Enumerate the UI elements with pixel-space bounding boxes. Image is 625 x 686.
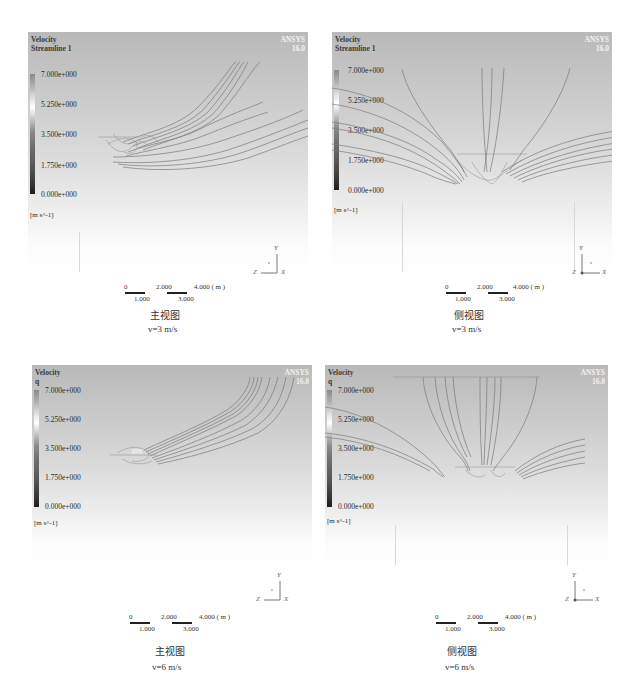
panel-side-view-6ms: Velocity q ANSYS 16.0 7.000e+000 5.250e+… [312, 345, 625, 686]
scale-segment [172, 622, 192, 624]
scale-bar: 0 2.000 4.000 ( m ) 1.000 3.000 [129, 613, 259, 635]
scale-segment [167, 292, 187, 294]
scale-label: 2.000 [161, 613, 177, 621]
axis-z-label: Z [256, 595, 260, 603]
axis-triad-icon [574, 248, 604, 278]
scale-label: 0 [124, 283, 128, 291]
panel-front-view-3ms: Velocity Streamline 1 ANSYS 16.0 7.000e+… [0, 0, 312, 345]
scale-segment [130, 622, 150, 624]
divider-line [402, 202, 403, 272]
axis-z-label: Z [572, 268, 576, 276]
view-caption: 主视图 [155, 643, 185, 658]
streamlines [32, 365, 312, 565]
streamlines [332, 32, 612, 272]
divider-line [567, 525, 568, 565]
scale-label: 4.000 ( m ) [199, 613, 230, 621]
scale-label: 3.000 [178, 295, 194, 303]
speed-label: v=3 m/s [452, 324, 481, 334]
panel-front-view-6ms: Velocity q ANSYS 16.0 7.000e+000 5.250e+… [0, 345, 312, 686]
cfd-viewport: Velocity q ANSYS 16.0 7.000e+000 5.250e+… [325, 365, 608, 565]
cfd-viewport: Velocity Streamline 1 ANSYS 16.0 7.000e+… [28, 32, 308, 272]
axis-triad: Y Z X [255, 248, 285, 278]
scale-label: 3.000 [489, 625, 505, 633]
view-caption: 侧视图 [454, 307, 484, 322]
scale-segment [478, 622, 498, 624]
scale-bar: 0 2.000 4.000 ( m ) 1.000 3.000 [435, 613, 565, 635]
axis-z-label: Z [253, 268, 257, 276]
axis-x-label: X [281, 268, 285, 276]
streamlines [325, 365, 608, 565]
view-caption: 主视图 [150, 307, 180, 322]
axis-triad: Y Z X [574, 248, 604, 278]
scale-label: 4.000 ( m ) [505, 613, 536, 621]
axis-triad: Y Z X [258, 575, 288, 605]
scale-label: 2.000 [156, 283, 172, 291]
axis-triad-icon [567, 575, 597, 605]
scale-label: 0 [445, 283, 449, 291]
scale-label: 1.000 [445, 625, 461, 633]
scale-label: 1.000 [134, 295, 150, 303]
scale-label: 4.000 ( m ) [194, 283, 225, 291]
scale-label: 2.000 [467, 613, 483, 621]
axis-y-label: Y [274, 244, 278, 252]
axis-x-label: X [595, 595, 599, 603]
divider-line [79, 232, 80, 272]
axis-y-label: Y [579, 244, 583, 252]
scale-label: 1.000 [139, 625, 155, 633]
scale-label: 4.000 ( m ) [513, 283, 544, 291]
speed-label: v=6 m/s [445, 662, 474, 672]
streamlines [28, 32, 308, 272]
scale-label: 3.000 [499, 295, 515, 303]
axis-z-label: Z [565, 595, 569, 603]
axis-triad: Y Z X [567, 575, 597, 605]
cfd-viewport: Velocity Streamline 1 ANSYS 16.0 7.000e+… [332, 32, 612, 272]
scale-label: 2.000 [477, 283, 493, 291]
scale-segment [125, 292, 145, 294]
panel-side-view-3ms: Velocity Streamline 1 ANSYS 16.0 7.000e+… [312, 0, 625, 345]
speed-label: v=3 m/s [148, 324, 177, 334]
speed-label: v=6 m/s [152, 662, 181, 672]
divider-line [395, 525, 396, 565]
scale-segment [488, 292, 508, 294]
axis-x-label: X [602, 268, 606, 276]
view-caption: 侧视图 [447, 643, 477, 658]
scale-segment [436, 622, 456, 624]
axis-y-label: Y [277, 571, 281, 579]
scale-label: 0 [435, 613, 439, 621]
scale-segment [446, 292, 466, 294]
cfd-viewport: Velocity q ANSYS 16.0 7.000e+000 5.250e+… [32, 365, 312, 565]
scale-label: 3.000 [183, 625, 199, 633]
axis-x-label: X [284, 595, 288, 603]
scale-label: 1.000 [455, 295, 471, 303]
scale-bar: 0 2.000 4.000 ( m ) 1.000 3.000 [124, 283, 254, 305]
axis-y-label: Y [572, 571, 576, 579]
scale-bar: 0 2.000 4.000 ( m ) 1.000 3.000 [445, 283, 575, 305]
scale-label: 0 [129, 613, 133, 621]
